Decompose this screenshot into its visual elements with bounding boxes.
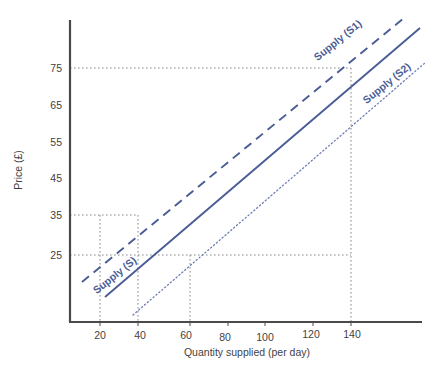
x-tick-label-40: 40 <box>134 329 146 341</box>
x-tick-label-100: 100 <box>256 331 274 343</box>
series-label-supply-s2: Supply (S2) <box>360 60 412 106</box>
x-tick-label-80: 80 <box>219 331 231 343</box>
chart-axes <box>69 20 422 322</box>
x-tick-label-20: 20 <box>94 329 106 341</box>
supply-curve-s2 <box>133 62 426 315</box>
x-tick-label-120: 120 <box>302 328 320 340</box>
y-tick-label-35: 35 <box>50 209 62 221</box>
series-label-supply-s1: Supply (S1) <box>311 17 363 63</box>
supply-s1-line <box>82 18 404 282</box>
y-tick-label-25: 25 <box>50 249 62 261</box>
x-axis-title: Quantity supplied (per day) <box>184 346 310 358</box>
y-axis-tick-labels: 75 65 55 45 35 25 <box>50 62 62 261</box>
x-tick-label-140: 140 <box>343 328 361 340</box>
supply-s2-line <box>133 62 426 315</box>
x-axis-tick-labels: 20 40 60 80 100 120 140 <box>94 328 361 343</box>
y-tick-label-45: 45 <box>50 172 62 184</box>
y-tick-label-65: 65 <box>50 99 62 111</box>
y-tick-label-55: 55 <box>50 136 62 148</box>
y-axis-title: Price (£) <box>12 150 24 190</box>
supply-curves-chart: 20 40 60 80 100 120 140 75 65 55 45 35 2… <box>0 0 431 370</box>
y-tick-label-75: 75 <box>50 62 62 74</box>
chart-canvas: 20 40 60 80 100 120 140 75 65 55 45 35 2… <box>0 0 431 370</box>
x-tick-label-60: 60 <box>180 329 192 341</box>
supply-curve-s1 <box>82 18 404 282</box>
